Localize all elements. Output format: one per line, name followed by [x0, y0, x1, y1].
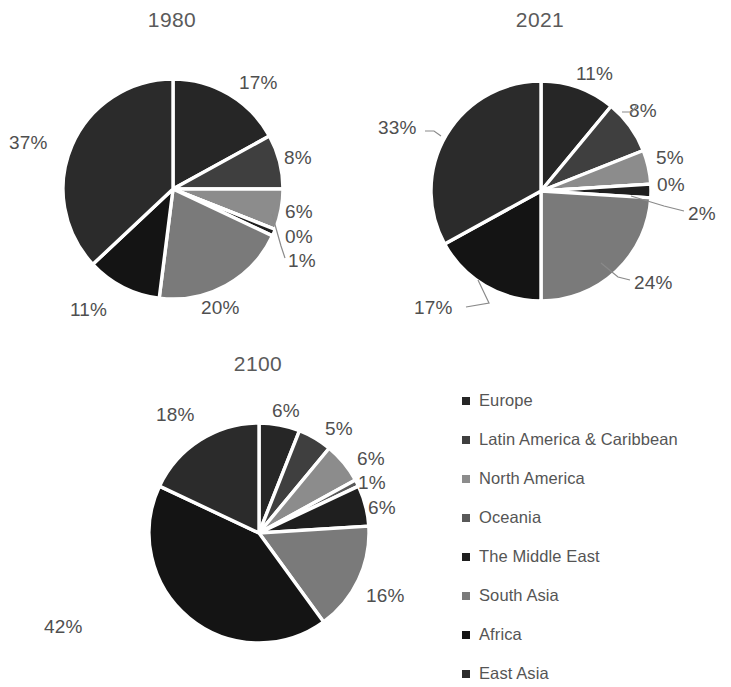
legend-swatch-icon	[462, 436, 470, 444]
legend-swatch-icon	[462, 670, 470, 678]
legend-item[interactable]: East Asia	[462, 654, 724, 687]
legend-item-label: Africa	[479, 625, 522, 644]
legend-swatch-icon	[462, 514, 470, 522]
legend-item-label: Europe	[479, 391, 533, 410]
slice-label-2100-north-america: 6%	[357, 448, 385, 470]
legend-swatch-icon	[462, 553, 470, 561]
slice-label-1980-east-asia: 37%	[9, 132, 48, 154]
legend-item[interactable]: Africa	[462, 615, 724, 654]
slice-label-2021-europe: 11%	[576, 63, 613, 85]
chart-title-2021: 2021	[480, 8, 600, 32]
legend-item-label: North America	[479, 469, 585, 488]
slice-label-1980-middle-east: 1%	[288, 250, 316, 272]
slice-label-2021-latin-america: 8%	[629, 100, 657, 122]
slice-label-2100-oceania: 1%	[358, 472, 386, 494]
slice-label-2021-middle-east: 2%	[688, 203, 716, 225]
legend-swatch-icon	[462, 592, 470, 600]
slice-label-1980-south-asia: 20%	[201, 297, 240, 319]
slice-label-2100-africa: 42%	[44, 616, 83, 638]
legend-swatch-icon	[462, 397, 470, 405]
legend-swatch-icon	[462, 631, 470, 639]
chart-title-1980: 1980	[112, 8, 232, 32]
slice-label-2100-east-asia: 18%	[156, 404, 195, 426]
slice-label-2100-south-asia: 16%	[366, 585, 405, 607]
slice-label-1980-africa: 11%	[70, 299, 107, 321]
slice-label-2100-europe: 6%	[272, 400, 300, 422]
slice-label-1980-oceania: 0%	[285, 226, 313, 248]
slice-label-2021-east-asia: 33%	[378, 117, 417, 139]
pie-graphic-1980	[60, 76, 286, 302]
legend: Europe Latin America & Caribbean North A…	[462, 381, 724, 687]
legend-item[interactable]: South Asia	[462, 576, 724, 615]
slice-label-2100-middle-east: 6%	[368, 497, 396, 519]
slice-label-1980-europe: 17%	[239, 72, 278, 94]
pie-graphic-2100	[146, 420, 372, 646]
legend-item[interactable]: Latin America & Caribbean	[462, 420, 724, 459]
slice-label-1980-latin-america: 8%	[284, 147, 312, 169]
legend-item[interactable]: Oceania	[462, 498, 724, 537]
chart-title-2100: 2100	[198, 352, 318, 376]
pie-graphic-2021	[428, 78, 654, 304]
legend-swatch-icon	[462, 475, 470, 483]
legend-item[interactable]: The Middle East	[462, 537, 724, 576]
slice-label-2021-north-america: 5%	[656, 147, 684, 169]
legend-item-label: Oceania	[479, 508, 541, 527]
legend-item-label: East Asia	[479, 664, 549, 683]
legend-item-label: The Middle East	[479, 547, 600, 566]
slice-label-2021-south-asia: 24%	[634, 272, 673, 294]
legend-item[interactable]: North America	[462, 459, 724, 498]
slice-label-2021-oceania: 0%	[657, 174, 685, 196]
legend-item-label: Latin America & Caribbean	[479, 430, 678, 449]
slice-label-1980-north-america: 6%	[285, 201, 313, 223]
slice-label-2021-africa: 17%	[414, 297, 453, 319]
legend-item-label: South Asia	[479, 586, 559, 605]
legend-item[interactable]: Europe	[462, 381, 724, 420]
slice-label-2100-latin-america: 5%	[325, 418, 353, 440]
